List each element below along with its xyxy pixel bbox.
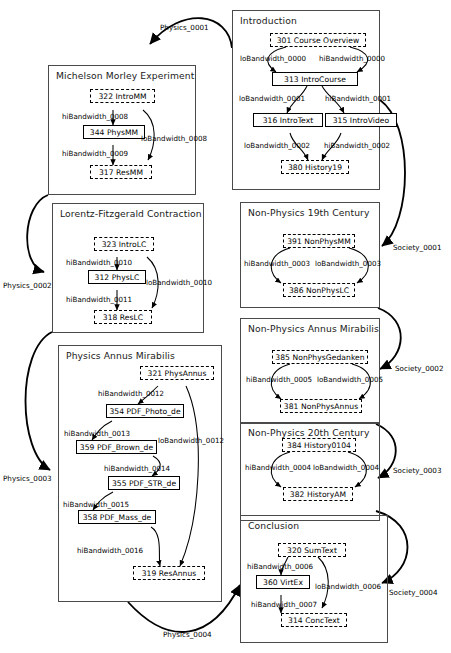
edge-label-lo-0006: loBandwidth_0006: [315, 582, 381, 591]
edge-label-hi-0007: hiBandwidth_0007: [251, 600, 317, 609]
node-313-introcourse[interactable]: 313 IntroCourse: [272, 72, 358, 86]
edge-label-society-0002: Society_0002: [395, 364, 444, 373]
edge-label-hi-0004: hiBandwidth_0004: [245, 463, 311, 472]
edge-label-lo-0002: loBandwidth_0002: [244, 141, 310, 150]
edge-label-lo-0003: loBandwidth_0003: [315, 259, 381, 268]
edge-label-lo-0010: loBandwidth_0010: [146, 278, 212, 287]
edge-label-lo-0004: loBandwidth_0004: [313, 463, 379, 472]
node-380-history19[interactable]: 380 History19: [281, 160, 349, 174]
node-386-nonphyslc[interactable]: 386 NonPhysLC: [283, 283, 355, 297]
node-359-pdf-brown-de[interactable]: 359 PDF_Brown_de: [76, 440, 157, 454]
node-323-introlc[interactable]: 323 IntroLC: [94, 237, 154, 251]
node-381-nonphysannus[interactable]: 381 NonPhysAnnus: [280, 399, 362, 413]
node-312-physlc[interactable]: 312 PhysLC: [88, 270, 146, 284]
edge-label-hi-0011: hiBandwidth_0011: [66, 295, 132, 304]
edge-label-lo-0001: loBandwidth_0001: [239, 94, 305, 103]
edge-label-lo-0008: loBandwidth_0008: [141, 134, 207, 143]
node-355-pdf-str-de[interactable]: 355 PDF_STR_de: [108, 476, 180, 490]
node-385-nonphysgedanken[interactable]: 385 NonPhysGedanken: [272, 350, 368, 364]
node-317-resmm[interactable]: 317 ResMM: [90, 165, 152, 179]
edge-label-society-0003: Society_0003: [393, 466, 442, 475]
edge-label-hi-0013: hiBandwidth_0013: [64, 429, 130, 438]
node-360-virtex[interactable]: 360 VirtEx: [256, 575, 310, 589]
group-title-conclusion: Conclusion: [248, 520, 299, 531]
group-title-nonphysics-annus: Non-Physics Annus Mirabilis: [248, 323, 379, 334]
edge-label-hi-0009: hiBandwidth_0009: [62, 149, 128, 158]
edge-label-hi-0006: hiBandwidth_0006: [247, 562, 313, 571]
node-382-historyam[interactable]: 382 HistoryAM: [283, 487, 353, 501]
edge-label-physics-0002: Physics_0002: [3, 281, 52, 290]
node-354-pdf-photo-de[interactable]: 354 PDF_Photo_de: [106, 404, 184, 418]
edge-label-hi-0008: hiBandwidth_0008: [62, 112, 128, 121]
node-316-introtext[interactable]: 316 IntroText: [253, 113, 323, 127]
edge-label-hi-0003: hiBandwidth_0003: [244, 259, 310, 268]
node-321-physannus[interactable]: 321 PhysAnnus: [140, 366, 214, 380]
edge-label-hi-0015: hiBandwidth_0015: [63, 500, 129, 509]
edge-label-lo-0005: loBandwidth_0005: [317, 375, 383, 384]
group-physics-annus: Physics Annus Mirabilis: [58, 345, 222, 602]
edge-label-society-0001: Society_0001: [393, 243, 442, 252]
edge-label-hi-0000: hiBandwidth_0000: [319, 54, 385, 63]
edge-label-hi-0001: hiBandwidth_0001: [325, 94, 391, 103]
edge-label-lo-0000: loBandwidth_0000: [240, 54, 306, 63]
node-320-sumtext[interactable]: 320 SumText: [278, 543, 346, 557]
edge-label-lo-0012: loBandwidth_0012: [158, 436, 224, 445]
edge-label-hi-0014: hiBandwidth_0014: [104, 464, 170, 473]
edge-label-physics-0001: Physics_0001: [160, 23, 209, 32]
node-344-physmm[interactable]: 344 PhysMM: [83, 125, 145, 139]
node-358-pdf-mass-de[interactable]: 358 PDF_Mass_de: [78, 510, 156, 524]
node-384-history0104[interactable]: 384 History0104: [282, 438, 356, 452]
node-318-reslc[interactable]: 318 ResLC: [94, 310, 152, 324]
edge-label-hi-0005: hiBandwidth_0005: [246, 375, 312, 384]
node-322-intromm[interactable]: 322 IntroMM: [90, 89, 155, 103]
edge-label-physics-0004: Physics_0004: [163, 630, 212, 639]
node-319-resannus[interactable]: 319 ResAnnus: [133, 566, 205, 580]
edge-label-hi-0012: hiBandwidth_0012: [98, 389, 164, 398]
edge-label-society-0004: Society_0004: [389, 588, 438, 597]
group-title-nonphysics-19th: Non-Physics 19th Century: [248, 207, 370, 218]
edge-label-hi-0016: hiBandwidth_0016: [77, 546, 143, 555]
group-title-michelson-morley: Michelson Morley Experiment: [56, 70, 194, 81]
node-314-conctext[interactable]: 314 ConcText: [281, 613, 347, 627]
node-391-nonphysmm[interactable]: 391 NonPhysMM: [283, 234, 355, 248]
group-title-nonphysics-20th: Non-Physics 20th Century: [248, 427, 370, 438]
edge-label-hi-0010: hiBandwidth_0010: [66, 258, 132, 267]
edge-label-hi-0002: hiBandwidth_0002: [324, 141, 390, 150]
node-315-introvideo[interactable]: 315 IntroVideo: [325, 113, 397, 127]
node-301-course-overview[interactable]: 301 Course Overview: [270, 33, 366, 47]
diagram-canvas: Introduction Michelson Morley Experiment…: [0, 0, 451, 653]
group-title-lorentz-fitzgerald: Lorentz-Fitzgerald Contraction: [60, 208, 202, 219]
edge-label-physics-0003: Physics_0003: [3, 474, 52, 483]
group-title-introduction: Introduction: [240, 15, 297, 26]
group-title-physics-annus: Physics Annus Mirabilis: [66, 350, 175, 361]
